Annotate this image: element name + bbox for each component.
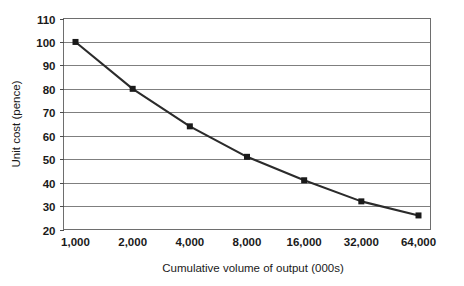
x-tick-label-32000: 32,000 [344,236,379,248]
x-tick-label-2000: 2,000 [118,236,147,248]
y-tick-label-110: 110 [37,14,56,26]
x-tick-label-1000: 1,000 [61,236,90,248]
data-point-64000 [416,212,422,218]
y-tick-label-100: 100 [36,37,55,49]
data-point-32000 [358,198,364,204]
unit-cost-line-chart: 2030405060708090100110 1,0002,0004,0008,… [0,0,464,286]
chart-figure: 2030405060708090100110 1,0002,0004,0008,… [0,0,464,286]
x-axis-title: Cumulative volume of output (000s) [162,262,344,274]
x-tick-label-64000: 64,000 [401,236,436,248]
plot-area-background [64,19,431,230]
y-tick-label-70: 70 [43,107,56,119]
data-point-8000 [244,154,250,160]
data-point-1000 [73,39,79,45]
y-tick-label-40: 40 [43,178,56,190]
y-tick-label-80: 80 [43,84,56,96]
y-tick-label-90: 90 [43,60,56,72]
y-tick-label-60: 60 [43,131,56,143]
data-point-4000 [187,123,193,129]
y-tick-label-30: 30 [43,201,56,213]
y-tick-label-50: 50 [43,154,56,166]
x-tick-label-16000: 16,000 [287,236,322,248]
data-point-16000 [301,177,307,183]
x-tick-label-8000: 8,000 [233,236,262,248]
data-point-2000 [130,86,136,92]
y-axis-title: Unit cost (pence) [10,80,22,167]
x-tick-label-4000: 4,000 [175,236,204,248]
y-tick-label-20: 20 [43,225,56,237]
